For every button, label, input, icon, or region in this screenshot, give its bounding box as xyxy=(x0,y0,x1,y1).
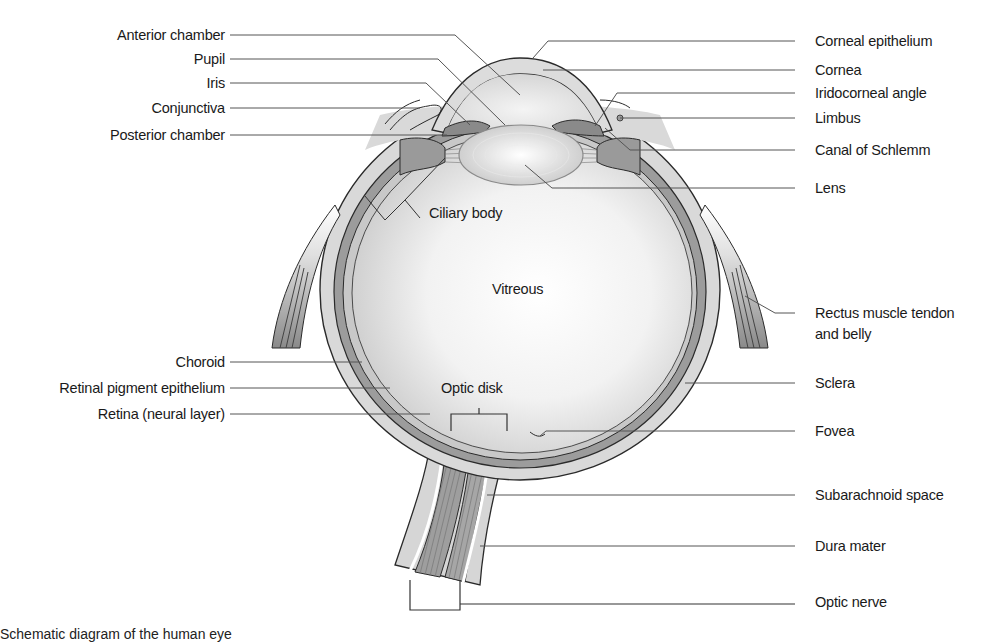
label-subarachnoid-space: Subarachnoid space xyxy=(815,487,944,504)
label-canal-of-schlemm: Canal of Schlemm xyxy=(815,142,930,159)
label-lens: Lens xyxy=(815,180,846,197)
label-vitreous: Vitreous xyxy=(492,281,543,298)
label-optic-nerve: Optic nerve xyxy=(815,594,887,611)
label-dura-mater: Dura mater xyxy=(815,538,886,555)
figure-caption: Schematic diagram of the human eye xyxy=(0,626,232,642)
label-limbus: Limbus xyxy=(815,110,861,127)
label-rectus-muscle-line2: and belly xyxy=(815,326,871,343)
label-sclera: Sclera xyxy=(815,375,855,392)
label-choroid: Choroid xyxy=(176,354,225,371)
label-iris: Iris xyxy=(206,75,225,92)
label-anterior-chamber: Anterior chamber xyxy=(117,27,225,44)
label-rectus-muscle: Rectus muscle tendon xyxy=(815,305,954,322)
label-pupil: Pupil xyxy=(194,51,225,68)
label-ciliary-body: Ciliary body xyxy=(429,205,502,222)
label-conjunctiva: Conjunctiva xyxy=(151,100,225,117)
label-retinal-pigment-epithelium: Retinal pigment epithelium xyxy=(59,380,225,397)
label-retina-neural-layer: Retina (neural layer) xyxy=(98,406,225,423)
label-cornea: Cornea xyxy=(815,62,861,79)
lens-graphic xyxy=(459,125,583,185)
label-iridocorneal-angle: Iridocorneal angle xyxy=(815,85,927,102)
label-optic-disk: Optic disk xyxy=(441,380,503,397)
label-fovea: Fovea xyxy=(815,423,854,440)
label-corneal-epithelium: Corneal epithelium xyxy=(815,33,932,50)
label-posterior-chamber: Posterior chamber xyxy=(110,127,225,144)
